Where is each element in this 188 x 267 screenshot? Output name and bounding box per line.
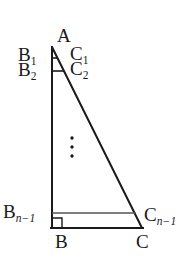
vertex-label-a: A bbox=[57, 26, 71, 45]
vertex-label-b: B bbox=[55, 232, 68, 251]
geometry-figure: A B1 C1 B2 C2 Bn−1 Cn−1 B C bbox=[0, 0, 188, 267]
vertical-ellipsis-icon bbox=[70, 136, 73, 157]
vertex-label-c-n-minus-1: Cn−1 bbox=[144, 205, 176, 224]
triangle-hypotenuse-ac bbox=[52, 47, 142, 228]
vertex-label-b-n-minus-1: Bn−1 bbox=[3, 202, 35, 221]
right-angle-marker-icon bbox=[52, 218, 62, 228]
vertex-label-c2: C2 bbox=[70, 59, 88, 78]
vertex-label-c: C bbox=[136, 232, 149, 251]
vertex-label-b2: B2 bbox=[18, 60, 36, 79]
